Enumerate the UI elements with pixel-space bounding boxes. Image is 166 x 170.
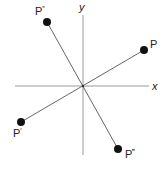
reflection-diagram: x y P P′ P″ P‴ xyxy=(0,0,166,170)
label-P-double-prime: P″ xyxy=(35,5,45,17)
x-axis-label: x xyxy=(151,80,158,92)
point-P-triple-prime xyxy=(114,145,122,153)
label-P-prime: P′ xyxy=(13,127,22,139)
point-P xyxy=(140,46,148,54)
label-P-triple-prime: P‴ xyxy=(125,148,135,160)
point-P-prime xyxy=(17,118,25,126)
origin xyxy=(82,85,84,87)
point-P-double-prime xyxy=(43,18,51,26)
label-P: P xyxy=(150,38,157,50)
y-axis-label: y xyxy=(78,1,86,13)
